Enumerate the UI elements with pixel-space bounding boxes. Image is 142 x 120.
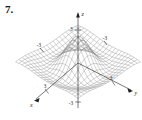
y-axis-arrow-icon: [127, 88, 133, 93]
x-negative-tick-label: -3: [37, 42, 42, 48]
y-axis-label: y: [134, 90, 138, 96]
z-axis-arrow-icon: [76, 12, 80, 18]
y-positive-tick-label: 3: [110, 75, 113, 81]
mesh-line: [44, 37, 106, 80]
y-axis-line: [78, 63, 131, 90]
y-negative-tick-label: -3: [103, 35, 108, 41]
x-negative-tick: [40, 48, 44, 52]
x-positive-tick-label: 3: [44, 83, 47, 89]
mesh-line: [56, 39, 118, 76]
mesh-line: [59, 37, 121, 74]
y-negative-tick: [104, 41, 107, 45]
x-axis-label: x: [29, 102, 33, 108]
figure-panel: 7. 3 -3 3: [0, 0, 142, 120]
mesh-line: [37, 39, 99, 76]
surface-plot-figure: 3 -3 3 3 -3 -3 z y x: [0, 0, 142, 120]
x-axis-line: [36, 63, 78, 99]
mesh-line: [28, 54, 90, 91]
z-axis-label: z: [81, 11, 85, 17]
mesh-line: [75, 60, 137, 97]
z-positive-tick-label: 3: [70, 26, 73, 32]
z-negative-tick-label: -3: [69, 100, 74, 106]
mesh-line: [19, 27, 81, 64]
mesh-line: [50, 37, 112, 80]
